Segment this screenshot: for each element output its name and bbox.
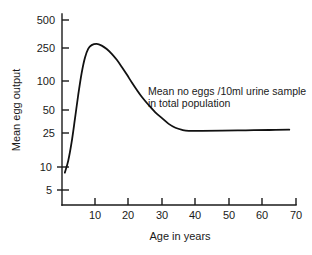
chart-figure: 500 250 100 50 25 10 5 10 20 30 40 50 60 (0, 0, 312, 255)
axes-group (62, 14, 296, 205)
annotation-line-1: Mean no eggs /10ml urine sample (148, 85, 306, 97)
y-tick-label-100: 100 (37, 75, 55, 87)
x-tick-label-30: 30 (156, 209, 168, 221)
y-axis-title: Mean egg output (10, 69, 22, 152)
y-tick-label-500: 500 (37, 14, 55, 26)
y-tick-labels: 500 250 100 50 25 10 5 (37, 14, 55, 196)
chart-canvas: 500 250 100 50 25 10 5 10 20 30 40 50 60 (0, 0, 312, 255)
curve-annotation: Mean no eggs /10ml urine sample in total… (148, 85, 306, 109)
annotation-line-2: in total population (148, 97, 230, 109)
y-tick-label-250: 250 (37, 42, 55, 54)
y-tick-label-5: 5 (46, 184, 52, 196)
x-tick-marks (95, 198, 296, 205)
y-tick-label-10: 10 (40, 161, 52, 173)
x-tick-label-20: 20 (122, 209, 134, 221)
x-tick-label-50: 50 (223, 209, 235, 221)
x-tick-label-60: 60 (256, 209, 268, 221)
x-tick-label-40: 40 (189, 209, 201, 221)
y-tick-label-50: 50 (43, 104, 55, 116)
x-tick-labels: 10 20 30 40 50 60 70 (89, 209, 302, 221)
x-axis-title: Age in years (149, 230, 211, 242)
x-tick-label-10: 10 (89, 209, 101, 221)
x-tick-label-70: 70 (290, 209, 302, 221)
y-tick-label-25: 25 (43, 127, 55, 139)
